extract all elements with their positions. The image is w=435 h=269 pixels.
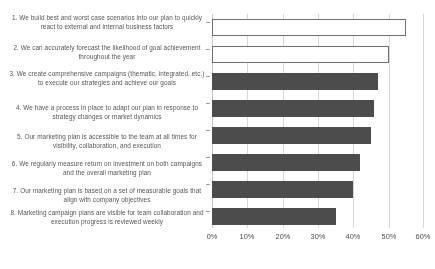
x-tick-label-50: 50% [382, 232, 397, 241]
bar-8 [212, 208, 336, 225]
gridline-60 [423, 14, 424, 228]
bar-4 [212, 100, 374, 117]
category-label-6: 6. We regularly measure return on invest… [6, 160, 208, 177]
bar-6 [212, 154, 360, 171]
x-tick-label-40: 40% [346, 232, 361, 241]
y-tick-6 [206, 157, 210, 158]
horizontal-bar-chart: 1. We build best and worst case scenario… [0, 0, 435, 269]
bar-3 [212, 73, 378, 90]
y-tick-7 [206, 184, 210, 185]
x-tick-label-30: 30% [311, 232, 326, 241]
y-tick-4 [206, 103, 210, 104]
gridline-50 [389, 14, 390, 228]
y-tick-5 [206, 130, 210, 131]
category-label-7: 7. Our marketing plan is based on a set … [6, 187, 208, 204]
bar-2 [212, 46, 389, 63]
category-label-1: 1. We build best and worst case scenario… [6, 14, 208, 31]
y-tick-2 [206, 49, 210, 50]
category-label-8: 8. Marketing campaign plans are visible … [6, 209, 208, 226]
category-label-2: 2. We can accurately forecast the likeli… [6, 44, 208, 61]
category-label-3: 3. We create comprehensive campaigns (th… [6, 70, 208, 87]
x-axis: 0% 10% 20% 30% 40% 50% 60% [212, 232, 424, 246]
bar-5 [212, 127, 371, 144]
bar-1 [212, 19, 406, 36]
x-tick-label-60: 60% [416, 232, 431, 241]
category-label-4: 4. We have a process in place to adapt o… [6, 104, 208, 121]
y-tick-3 [206, 76, 210, 77]
bar-7 [212, 181, 353, 198]
plot-area [212, 14, 424, 228]
y-tick-1 [206, 22, 210, 23]
x-tick-label-20: 20% [276, 232, 291, 241]
x-tick-label-0: 0% [207, 232, 218, 241]
x-tick-label-10: 10% [240, 232, 255, 241]
y-tick-8 [206, 211, 210, 212]
category-label-5: 5. Our marketing plan is accessible to t… [6, 133, 208, 150]
